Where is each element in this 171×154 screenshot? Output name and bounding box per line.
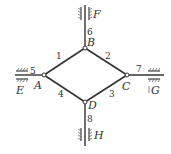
label-b: B <box>86 36 95 49</box>
label-member-6: 6 <box>87 27 93 37</box>
label-c: C <box>122 80 131 93</box>
label-member-3: 3 <box>109 89 115 99</box>
joint-a <box>42 73 46 77</box>
label-member-2: 2 <box>105 51 111 61</box>
joint-d <box>83 100 87 104</box>
label-g: G <box>151 84 160 97</box>
label-e: E <box>15 84 24 97</box>
label-a: A <box>33 79 42 92</box>
label-f: F <box>92 8 101 21</box>
member-3 <box>85 75 127 102</box>
member-4 <box>44 75 85 102</box>
member-1 <box>44 48 85 75</box>
joint-c <box>125 73 129 77</box>
label-member-4: 4 <box>58 89 64 99</box>
label-member-7: 7 <box>136 64 142 74</box>
label-member-5: 5 <box>30 66 36 76</box>
label-d: D <box>87 99 97 112</box>
label-member-8: 8 <box>87 114 93 124</box>
label-h: H <box>93 129 104 142</box>
label-member-1: 1 <box>56 51 62 61</box>
mechanism-diagram: A B C D 1 2 3 4 5 6 7 8 E F G H <box>0 0 171 154</box>
